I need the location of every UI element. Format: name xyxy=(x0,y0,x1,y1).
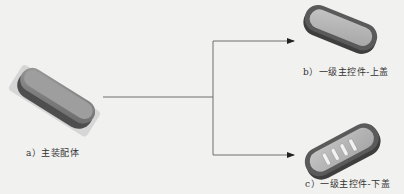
diagram-canvas xyxy=(0,0,404,194)
lower-cover-part xyxy=(300,118,386,185)
label-lower-cover: c）一级主控件-下盖 xyxy=(305,177,390,190)
label-upper-cover: b）一级主控件-上盖 xyxy=(303,65,389,78)
connector-lines xyxy=(103,41,294,155)
upper-cover-part xyxy=(299,1,381,58)
label-main-assembly: a）主装配体 xyxy=(26,146,79,159)
main-assembly-part xyxy=(8,61,104,138)
